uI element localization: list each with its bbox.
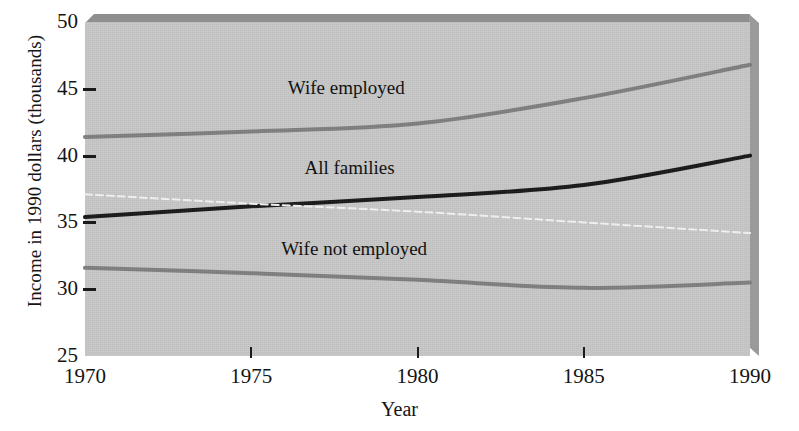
x-axis-ticks: 19701975198019851990 (0, 0, 799, 431)
series-label-all-families: All families (304, 158, 394, 177)
series-label-wife-not-employed: Wife not employed (281, 239, 427, 258)
x-tick-label: 1975 (230, 366, 272, 387)
y-tick-mark (83, 155, 96, 158)
series-label-wife-employed: Wife employed (288, 78, 405, 97)
y-tick-mark (83, 88, 96, 91)
x-tick-label: 1985 (563, 366, 605, 387)
chart-figure: Income in 1990 dollars (thousands) 50454… (0, 0, 799, 431)
x-tick-mark (250, 347, 252, 358)
x-tick-label: 1980 (397, 366, 439, 387)
x-tick-label: 1970 (64, 366, 106, 387)
x-tick-mark (417, 347, 419, 358)
x-tick-mark (583, 347, 585, 358)
y-tick-mark (83, 288, 96, 291)
y-tick-mark (83, 221, 96, 224)
x-tick-label: 1990 (729, 366, 771, 387)
x-axis-title: Year (0, 398, 799, 421)
